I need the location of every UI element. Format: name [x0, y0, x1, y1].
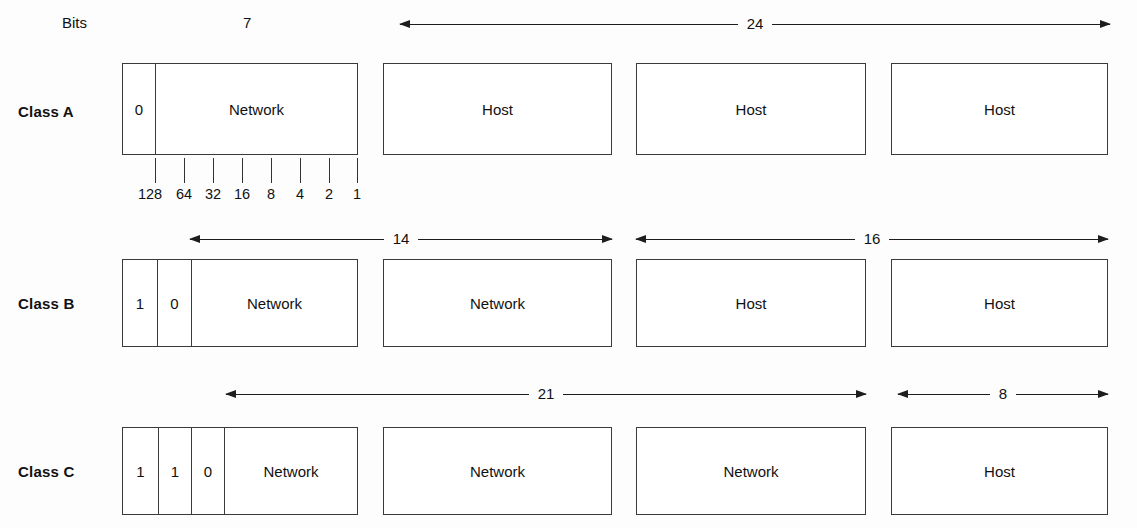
bit-cell-leading-1: 1	[158, 428, 191, 514]
arrow-right-icon	[602, 235, 613, 243]
span-value: 14	[384, 231, 419, 246]
bit-tick-5	[271, 158, 272, 183]
span-bar-left	[636, 239, 855, 240]
octet-class-a-2: Host	[383, 63, 612, 155]
span-label-class-a-7: 7	[243, 14, 251, 31]
bit-tick-7	[329, 158, 330, 183]
bit-tick-1	[155, 158, 156, 183]
arrow-right-icon	[1098, 390, 1109, 398]
arrow-left-icon	[225, 390, 236, 398]
octet-class-b-3: Host	[636, 259, 866, 347]
octet-class-a-4: Host	[891, 63, 1108, 155]
bit-weight-label: 64	[176, 186, 192, 202]
bit-cell-leading-0: 0	[157, 260, 191, 346]
span-value: 8	[990, 386, 1016, 401]
span-bar-right	[889, 239, 1108, 240]
arrow-left-icon	[399, 20, 410, 28]
span-arrow-class-b-14: 14	[190, 228, 612, 250]
span-bar-left	[400, 24, 738, 25]
span-arrow-class-c-8: 8	[898, 383, 1108, 405]
bit-weight-label: 8	[267, 186, 275, 202]
bit-weight-label: 32	[205, 186, 221, 202]
span-bar-right	[772, 24, 1110, 25]
bit-tick-6	[300, 158, 301, 183]
octet-class-c-2: Network	[383, 427, 612, 515]
arrow-left-icon	[635, 235, 646, 243]
arrow-right-icon	[1100, 20, 1111, 28]
span-bar-left	[226, 394, 529, 395]
octet-class-c-3: Network	[636, 427, 866, 515]
octet-class-b-4: Host	[891, 259, 1108, 347]
bit-weight-label: 2	[325, 186, 333, 202]
field-network: Network	[155, 64, 357, 154]
bit-tick-4	[242, 158, 243, 183]
bit-weight-label: 128	[138, 186, 162, 202]
bit-cell-leading-1: 1	[123, 260, 157, 346]
span-bar-left	[190, 239, 384, 240]
span-value: 24	[738, 16, 773, 31]
span-arrow-class-c-21: 21	[226, 383, 866, 405]
field-host: Host	[384, 64, 611, 154]
field-host: Host	[637, 260, 865, 346]
span-value: 16	[855, 231, 890, 246]
field-host: Host	[892, 260, 1107, 346]
octet-class-a-1: 0 Network	[122, 63, 358, 155]
ip-address-class-diagram: Bits 7 24 Class A 0 Network Host Host Ho…	[0, 0, 1137, 528]
bit-weight-label: 1	[353, 186, 361, 202]
bit-tick-8	[357, 158, 358, 183]
arrow-left-icon	[897, 390, 908, 398]
bit-tick-3	[213, 158, 214, 183]
bit-weight-label: 16	[234, 186, 250, 202]
arrow-left-icon	[189, 235, 200, 243]
octet-class-a-3: Host	[636, 63, 866, 155]
arrow-right-icon	[856, 390, 867, 398]
span-bar-left	[898, 394, 990, 395]
span-bar-right	[1016, 394, 1108, 395]
field-network: Network	[637, 428, 865, 514]
span-arrow-class-b-16: 16	[636, 228, 1108, 250]
octet-class-b-1: 1 0 Network	[122, 259, 358, 347]
bits-caption: Bits	[62, 14, 87, 31]
octet-class-c-1: 1 1 0 Network	[122, 427, 358, 515]
bit-weight-label: 4	[296, 186, 304, 202]
arrow-right-icon	[1098, 235, 1109, 243]
field-host: Host	[892, 64, 1107, 154]
bit-cell-leading-0: 0	[123, 64, 155, 154]
octet-class-c-4: Host	[891, 427, 1108, 515]
bit-cell-leading-0: 0	[191, 428, 224, 514]
bit-cell-leading-1: 1	[123, 428, 158, 514]
bit-tick-2	[184, 158, 185, 183]
row-label-class-c: Class C	[18, 463, 74, 480]
span-bar-right	[418, 239, 612, 240]
span-arrow-class-a-24: 24	[400, 13, 1110, 35]
field-network: Network	[224, 428, 357, 514]
octet-class-b-2: Network	[383, 259, 612, 347]
row-label-class-a: Class A	[18, 103, 74, 120]
span-bar-right	[563, 394, 866, 395]
field-host: Host	[637, 64, 865, 154]
field-host: Host	[892, 428, 1107, 514]
field-network: Network	[384, 260, 611, 346]
field-network: Network	[384, 428, 611, 514]
span-value: 21	[529, 386, 564, 401]
field-network: Network	[191, 260, 357, 346]
row-label-class-b: Class B	[18, 295, 74, 312]
